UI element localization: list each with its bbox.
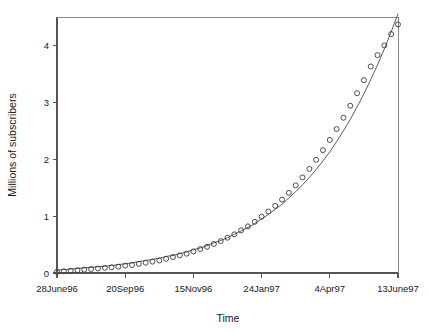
y-tick-label: 2: [44, 154, 49, 165]
x-tick-label: 13June97: [377, 283, 419, 294]
subscribers-growth-chart: 01234 28June9620Sep9615Nov9624Jan974Apr9…: [0, 0, 430, 334]
y-tick-label: 3: [44, 97, 49, 108]
chart-figure: 01234 28June9620Sep9615Nov9624Jan974Apr9…: [0, 0, 430, 334]
x-tick-label: 20Sep96: [106, 283, 144, 294]
y-tick-label: 1: [44, 211, 49, 222]
x-tick-label: 24Jan97: [243, 283, 279, 294]
x-tick-label: 15Nov96: [174, 283, 212, 294]
y-tick-label: 0: [44, 268, 49, 279]
x-tick-label: 28June96: [36, 283, 78, 294]
x-tick-label: 4Apr97: [314, 283, 345, 294]
y-tick-label: 4: [44, 40, 49, 51]
y-axis-title: Millions of subscribers: [6, 93, 18, 196]
x-axis-title: Time: [217, 312, 240, 324]
